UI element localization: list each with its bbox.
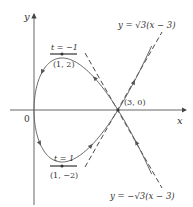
top-point-label: (1, 2) [53, 60, 75, 69]
origin-label: 0 [24, 114, 30, 124]
bottom-param-label: t = 1 [54, 154, 74, 163]
direction-arrow-icon [39, 69, 45, 75]
x-axis-label: x [177, 115, 183, 126]
top-tangent-equation: y = √3(x − 3) [117, 20, 176, 30]
crossing-point-label: (3, 0) [124, 98, 146, 107]
direction-arrow-icon [133, 139, 139, 145]
point-1-neg2 [61, 165, 64, 168]
point-1-2 [61, 53, 64, 56]
bottom-point-label: (1, −2) [50, 171, 78, 180]
top-param-label: t = −1 [51, 43, 78, 52]
point-3-0 [117, 109, 120, 112]
bottom-tangent-equation: y = −√3(x − 3) [109, 191, 175, 201]
direction-arrows [37, 69, 140, 149]
parametric-curve-diagram: y x 0 t = −1 (1, 2) t = 1 (1, −2) (3, 0)… [0, 0, 193, 207]
direction-arrow-icon [37, 140, 43, 146]
y-axis-label: y [23, 11, 30, 22]
tangent-line-negative [85, 53, 162, 188]
direction-arrow-icon [131, 79, 137, 85]
